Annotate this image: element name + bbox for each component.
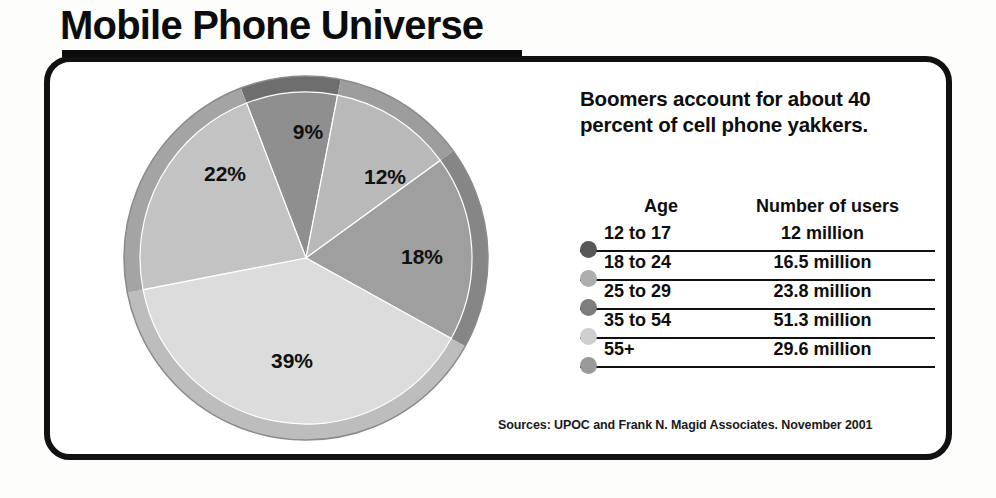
cell-age: 35 to 54 bbox=[602, 310, 722, 331]
cell-users: 16.5 million bbox=[722, 252, 935, 273]
users-table: Age Number of users 12 to 1712 million18… bbox=[580, 196, 935, 368]
cell-age: 55+ bbox=[602, 339, 722, 360]
column-header-age: Age bbox=[602, 196, 720, 217]
pie-chart: 9%12%18%39%22% bbox=[122, 72, 490, 444]
sources-note: Sources: UPOC and Frank N. Magid Associa… bbox=[498, 418, 872, 432]
cell-users: 29.6 million bbox=[722, 339, 935, 360]
cell-users: 23.8 million bbox=[722, 281, 935, 302]
page-title: Mobile Phone Universe bbox=[60, 2, 483, 48]
cell-users: 12 million bbox=[722, 223, 935, 244]
pie-chart-svg: 9%12%18%39%22% bbox=[122, 72, 490, 444]
title-underline bbox=[62, 50, 522, 57]
pie-slice-label: 12% bbox=[364, 165, 406, 188]
cell-age: 18 to 24 bbox=[602, 252, 722, 273]
pie-slice-label: 9% bbox=[293, 120, 324, 143]
infographic-page: Mobile Phone Universe 9%12%18%39%22% Boo… bbox=[0, 0, 996, 498]
cell-age: 12 to 17 bbox=[602, 223, 722, 244]
table-row: 55+29.6 million bbox=[580, 339, 935, 368]
pie-slice-label: 18% bbox=[401, 245, 443, 268]
pie-slice-label: 39% bbox=[271, 349, 313, 372]
cell-users: 51.3 million bbox=[722, 310, 935, 331]
cell-age: 25 to 29 bbox=[602, 281, 722, 302]
table-row: 18 to 2416.5 million bbox=[580, 252, 935, 281]
pie-slice-label: 22% bbox=[204, 162, 246, 185]
table-row: 12 to 1712 million bbox=[580, 223, 935, 252]
table-body: 12 to 1712 million18 to 2416.5 million25… bbox=[580, 223, 935, 368]
table-row: 35 to 5451.3 million bbox=[580, 310, 935, 339]
table-header-row: Age Number of users bbox=[580, 196, 935, 217]
legend-dot-icon bbox=[580, 357, 597, 374]
column-header-users: Number of users bbox=[720, 196, 935, 217]
headline-text: Boomers account for about 40 percent of … bbox=[580, 86, 930, 138]
table-row: 25 to 2923.8 million bbox=[580, 281, 935, 310]
